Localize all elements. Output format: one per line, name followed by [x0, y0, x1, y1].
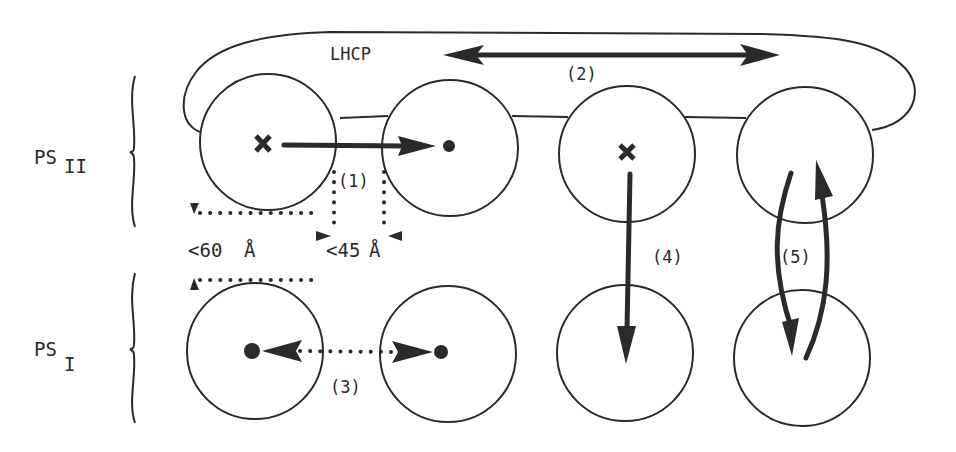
ps-ii-unit-4 — [737, 87, 873, 223]
ps-ii-label-main: PS — [34, 146, 57, 168]
vertical-distance-unit: Å — [244, 239, 256, 261]
process-1-arrow — [284, 136, 436, 156]
process-3-label: (3) — [330, 377, 361, 397]
ps-i-brace — [130, 273, 135, 423]
process-1-label: (1) — [338, 171, 369, 191]
closed-center-icon — [620, 145, 634, 159]
ps-i-unit-4 — [734, 290, 870, 426]
ps-i-group-label: PS I — [34, 338, 75, 375]
ps-i-label-main: PS — [34, 338, 57, 360]
horizontal-distance-value: <45 — [326, 239, 360, 261]
ps-ii-group-label: PS II — [34, 146, 87, 177]
horizontal-distance-unit: Å — [369, 239, 381, 261]
open-center-icon — [434, 345, 448, 359]
process-3-dotted-double-arrow — [262, 340, 433, 363]
vertical-distance-value: <60 — [188, 239, 222, 261]
process-2-double-arrow — [443, 44, 780, 66]
lhcp-envelope — [184, 32, 915, 132]
ps-i-label-sub: I — [64, 353, 75, 375]
ps-ii-brace — [130, 76, 135, 227]
lhcp-label: LHCP — [330, 44, 371, 64]
energy-transfer-diagram: PS II PS I LHCP (1) (2) — [0, 0, 956, 452]
open-center-icon — [443, 140, 455, 152]
closed-center-icon — [256, 136, 270, 151]
ps-ii-unit-1 — [200, 74, 336, 210]
process-4-arrow — [617, 174, 636, 364]
open-center-icon — [244, 343, 260, 359]
process-4-label: (4) — [652, 247, 683, 267]
ps-ii-label-sub: II — [64, 155, 87, 177]
process-2-label: (2) — [566, 64, 597, 84]
process-5-label: (5) — [780, 247, 811, 267]
